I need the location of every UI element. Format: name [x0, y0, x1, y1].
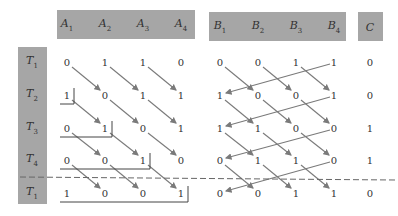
cell-b-2-0: 1 [217, 123, 223, 134]
row-label-1: T2 [26, 87, 38, 102]
cell-c-1: 0 [367, 90, 373, 101]
cell-b-2-1: 1 [255, 123, 261, 134]
cell-b-0-3: 1 [331, 57, 337, 68]
cell-a-4-2: 0 [140, 188, 146, 199]
cell-b-1-1: 0 [255, 90, 261, 101]
cell-c-4: 0 [367, 188, 373, 199]
cell-a-0-0: 0 [64, 57, 70, 68]
cell-a-0-3: 0 [178, 57, 184, 68]
cell-a-4-1: 0 [102, 188, 108, 199]
cell-b-0-2: 1 [293, 57, 299, 68]
cell-b-3-3: 0 [331, 155, 337, 166]
shift-arrow-a [72, 165, 100, 188]
cell-a-0-2: 1 [140, 57, 146, 68]
shift-arrow-a [148, 100, 176, 123]
cell-a-2-3: 1 [178, 123, 184, 134]
cell-b-0-0: 0 [217, 57, 223, 68]
cell-b-4-1: 0 [255, 188, 261, 199]
cell-a-3-1: 0 [102, 155, 108, 166]
cell-a-1-2: 1 [140, 90, 146, 101]
cell-b-4-3: 1 [331, 188, 337, 199]
cell-b-2-2: 0 [293, 123, 299, 134]
shift-arrow-a [148, 165, 176, 188]
cell-c-2: 1 [367, 123, 373, 134]
cell-a-2-0: 0 [64, 123, 70, 134]
shift-arrow-a [72, 133, 100, 155]
row-label-4: T1 [26, 185, 38, 200]
cell-a-3-2: 1 [140, 155, 146, 166]
shift-arrow-a [72, 67, 100, 90]
cell-b-3-1: 1 [255, 155, 261, 166]
header-c: C [366, 21, 374, 34]
cell-a-1-3: 1 [178, 90, 184, 101]
row-label-3: T4 [26, 152, 38, 167]
shift-arrow-a [110, 100, 138, 123]
cell-b-4-2: 1 [293, 188, 299, 199]
cell-a-4-0: 1 [64, 188, 70, 199]
cell-b-4-0: 0 [217, 188, 223, 199]
header-a1: A1 [61, 17, 73, 32]
cell-a-1-1: 0 [102, 90, 108, 101]
header-a4: A4 [175, 17, 187, 32]
header-b4: B4 [328, 19, 341, 34]
shift-arrow-a [72, 100, 100, 123]
shift-arrow-a [110, 67, 138, 90]
cell-a-2-1: 1 [102, 123, 108, 134]
cell-b-3-2: 1 [293, 155, 299, 166]
cell-b-1-2: 0 [293, 90, 299, 101]
cell-b-3-0: 0 [217, 155, 223, 166]
cell-b-1-0: 1 [217, 90, 223, 101]
header-a3: A3 [137, 17, 149, 32]
cell-c-3: 1 [367, 155, 373, 166]
diagram-canvas: A1A2A3A4B1B2B3B4CT1011000110T2101110010T… [0, 0, 398, 216]
shift-arrow-a [148, 67, 176, 90]
cell-b-1-3: 1 [331, 90, 337, 101]
row-label-2: T3 [26, 120, 38, 135]
cell-a-1-0: 1 [64, 90, 70, 101]
cell-b-0-1: 0 [255, 57, 261, 68]
shift-arrow-a [110, 133, 138, 155]
cell-a-4-3: 1 [178, 188, 184, 199]
row-label-0: T1 [26, 54, 38, 69]
header-b1: B1 [214, 19, 227, 34]
header-b2: B2 [252, 19, 265, 34]
header-a2: A2 [99, 17, 111, 32]
cell-a-2-2: 0 [140, 123, 146, 134]
cell-b-2-3: 0 [331, 123, 337, 134]
period-dashed-separator [20, 177, 395, 180]
cell-a-3-3: 0 [178, 155, 184, 166]
cell-a-0-1: 1 [102, 57, 108, 68]
header-b3: B3 [290, 19, 303, 34]
shift-arrow-a [148, 133, 176, 155]
cell-a-3-0: 0 [64, 155, 70, 166]
cell-c-0: 0 [367, 57, 373, 68]
shift-arrow-a [110, 165, 138, 188]
